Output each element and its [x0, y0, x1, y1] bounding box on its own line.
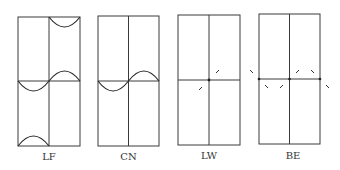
panel-be: BE: [250, 14, 329, 161]
panel-be-dash: [280, 85, 283, 88]
panel-lw-dash: [216, 70, 219, 73]
panel-lf-top-wave: [49, 17, 80, 27]
panel-lw: LW: [178, 15, 240, 161]
panel-be-dash: [311, 70, 314, 73]
panel-cn-label: CN: [120, 151, 137, 162]
panel-be-dash: [296, 70, 299, 73]
panel-be-node: [258, 78, 261, 81]
panel-be-node: [288, 78, 291, 81]
panel-be-node: [319, 78, 322, 81]
panel-lw-dash: [199, 87, 202, 90]
panel-lf-bottom-wave: [18, 136, 49, 146]
panel-be-dash: [265, 85, 268, 88]
panel-be-label: BE: [286, 150, 301, 161]
domain-wall-diagram: LF CN LW BE: [0, 0, 340, 170]
panel-be-dash: [250, 70, 253, 73]
panel-lw-node: [208, 79, 211, 82]
panel-be-dash: [326, 85, 329, 88]
panel-lf-label: LF: [42, 151, 56, 162]
panel-lw-label: LW: [201, 150, 218, 161]
panel-cn: CN: [98, 16, 159, 162]
panel-lf: LF: [18, 17, 80, 162]
